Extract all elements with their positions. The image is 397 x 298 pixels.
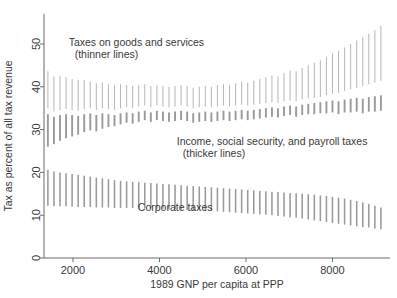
series-corporate-taxes <box>48 170 381 230</box>
annotation-corporate: Corporate taxes <box>138 201 213 213</box>
y-tick-label: 50 <box>30 38 42 50</box>
y-tick-label: 10 <box>30 209 42 221</box>
y-tick-label: 20 <box>30 166 42 178</box>
x-axis-title: 1989 GNP per capita at PPP <box>150 278 283 290</box>
y-tick-label: 40 <box>30 81 42 93</box>
annotation-income: Income, social security, and payroll tax… <box>177 135 368 147</box>
chart-figure: 0102030405020004000600080001989 GNP per … <box>0 0 397 298</box>
x-tick-label: 6000 <box>234 264 258 276</box>
annotation-goods-sub: (thinner lines) <box>75 48 139 60</box>
annotation-income-sub: (thicker lines) <box>183 147 245 159</box>
x-tick-label: 4000 <box>147 264 171 276</box>
y-tick-label: 0 <box>30 255 42 261</box>
y-axis-title: Tax as percent of all tax revenue <box>2 60 14 211</box>
x-tick-label: 2000 <box>61 264 85 276</box>
annotation-goods: Taxes on goods and services <box>69 36 204 48</box>
chart-canvas: 0102030405020004000600080001989 GNP per … <box>0 0 397 298</box>
x-tick-label: 8000 <box>320 264 344 276</box>
y-tick-label: 30 <box>30 123 42 135</box>
